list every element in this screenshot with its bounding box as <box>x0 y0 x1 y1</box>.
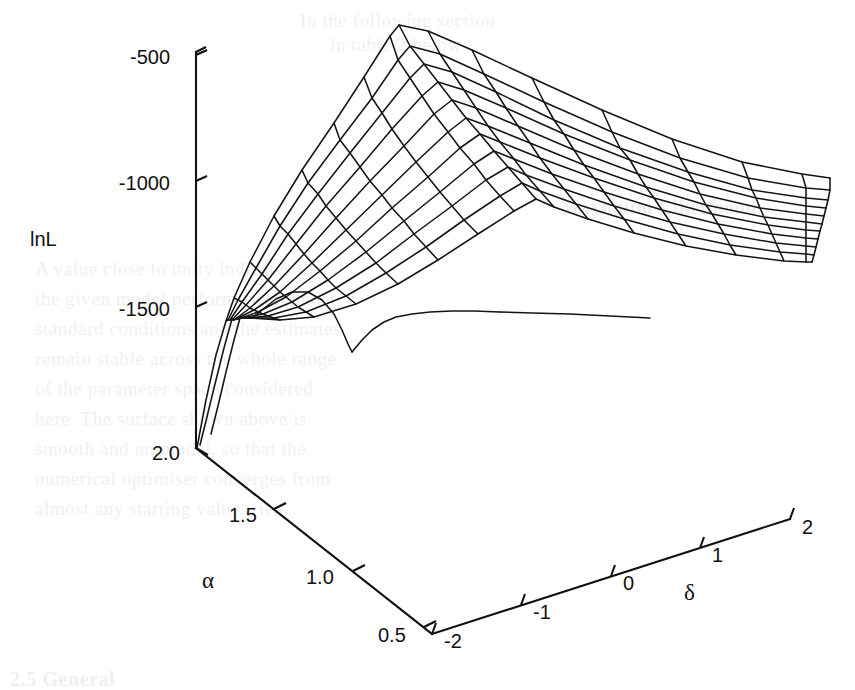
z-tick--1500 <box>196 302 207 307</box>
mesh-line-alpha-17 <box>812 178 830 262</box>
delta-tick-label-2: 0 <box>623 572 634 594</box>
alpha-tick-1p0 <box>353 565 365 571</box>
delta-tick-label-1: -1 <box>533 601 551 623</box>
delta-axis-title: δ <box>684 580 695 605</box>
alpha-tick-label-2: 1.0 <box>306 566 334 588</box>
valley-right-wall <box>352 311 500 352</box>
z-tick-label-1: -1000 <box>119 172 170 194</box>
alpha-tick-1p5 <box>274 503 286 509</box>
z-tick-label-0: -500 <box>130 46 170 68</box>
z-tick--1000 <box>196 176 207 181</box>
alpha-axis-line <box>196 448 432 634</box>
surface-plot-svg: -500 -1000 -1500 lnL 2.0 1.5 1.0 0.5 α -… <box>0 0 855 690</box>
skirt-fold-a <box>200 319 232 445</box>
delta-axis-line <box>432 519 790 634</box>
delta-tick-label-0: -2 <box>444 630 462 652</box>
z-axis-title: lnL <box>30 228 57 250</box>
valley-ridge-fold <box>500 312 650 318</box>
figure-container: In the following sectionin table 2 below… <box>0 0 855 690</box>
surface-hidden-line-mask <box>226 25 830 322</box>
delta-axis <box>432 508 794 634</box>
alpha-tick-label-1: 1.5 <box>229 504 257 526</box>
delta-tick-2 <box>790 508 794 519</box>
alpha-tick-label-3: 0.5 <box>378 624 406 646</box>
surface-mesh <box>226 25 830 322</box>
delta-tick-label-3: 1 <box>712 544 723 566</box>
z-axis <box>196 47 207 448</box>
surface-left-skirt <box>197 318 240 448</box>
skirt-fold-b <box>211 318 240 434</box>
alpha-axis-title: α <box>202 568 214 593</box>
alpha-axis <box>196 448 436 634</box>
z-tick-label-2: -1500 <box>119 298 170 320</box>
alpha-tick-label-0: 2.0 <box>152 442 180 464</box>
delta-tick-label-4: 2 <box>802 516 813 538</box>
